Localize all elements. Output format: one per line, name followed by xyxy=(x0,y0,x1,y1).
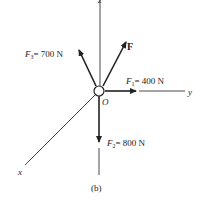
force-F-arrow xyxy=(103,42,126,86)
force-F1-label: F1= 400 N xyxy=(125,76,165,87)
z-axis-label: z xyxy=(97,0,102,5)
force-diagram: z y x O F F3= 700 N F1= 400 N F2= 800 N … xyxy=(0,0,203,204)
x-axis-label: x xyxy=(17,167,22,177)
force-F-label: F xyxy=(127,41,133,52)
force-F3-arrow xyxy=(79,50,96,86)
origin-label: O xyxy=(102,97,109,107)
force-F2-label: F2= 800 N xyxy=(106,138,146,149)
figure-caption: (b) xyxy=(91,183,102,193)
x-axis xyxy=(25,95,95,165)
y-axis-label: y xyxy=(187,87,192,97)
force-F3-label: F3= 700 N xyxy=(24,49,64,60)
origin-point xyxy=(94,86,104,96)
